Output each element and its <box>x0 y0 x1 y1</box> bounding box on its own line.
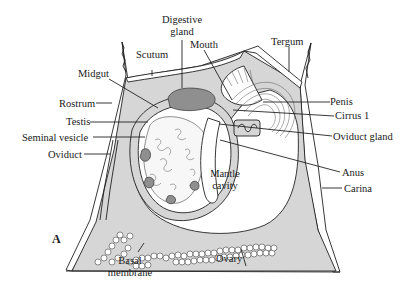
label-cirrus-1: Cirrus 1 <box>335 110 369 121</box>
label-scutum: Scutum <box>136 49 168 60</box>
barnacle-anatomy-diagram: Digestive gland Scutum Mouth Tergum Midg… <box>0 0 416 291</box>
label-tergum: Tergum <box>271 36 303 47</box>
label-midgut: Midgut <box>78 68 109 79</box>
panel-label: A <box>52 232 61 246</box>
label-penis: Penis <box>330 96 353 107</box>
label-seminal-vesicle: Seminal vesicle <box>22 132 89 143</box>
label-oviduct: Oviduct <box>48 149 82 160</box>
label-oviduct-gland: Oviduct gland <box>333 131 394 142</box>
label-mouth: Mouth <box>190 39 219 50</box>
label-digestive-gland-1: Digestive <box>162 14 203 25</box>
label-carina: Carina <box>344 183 372 194</box>
label-testis: Testis <box>66 116 90 127</box>
label-mantle-cavity-2: cavity <box>212 180 238 191</box>
label-digestive-gland-2: gland <box>170 26 194 37</box>
digestive-gland <box>168 88 215 111</box>
label-basal-membrane-1: Basal <box>118 255 141 266</box>
label-ovary: Ovary <box>216 253 243 264</box>
label-mantle-cavity-1: Mantle <box>210 168 240 179</box>
label-rostrum: Rostrum <box>59 98 95 109</box>
label-anus: Anus <box>342 167 364 178</box>
label-basal-membrane-2: membrane <box>108 267 153 278</box>
